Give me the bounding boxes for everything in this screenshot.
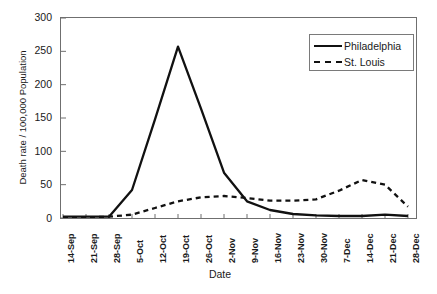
x-tick-label: 28-Sep xyxy=(112,233,122,263)
x-tick-label: 26-Oct xyxy=(204,235,214,263)
x-tick-label: 23-Nov xyxy=(296,233,306,263)
x-tick-label: 28-Dec xyxy=(411,233,421,263)
y-tick-label: 50 xyxy=(18,178,52,190)
x-tick-label: 21-Dec xyxy=(388,233,398,263)
series-line-philadelphia xyxy=(63,47,408,217)
y-tick-label: 0 xyxy=(18,212,52,224)
legend-swatch-dashed-line-icon xyxy=(314,57,342,67)
chart-figure: Death rate / 100,000 Population 300 250 … xyxy=(0,0,437,294)
x-tick-label: 9-Nov xyxy=(250,238,260,263)
y-tick-label: 300 xyxy=(18,11,52,23)
y-tick-label: 150 xyxy=(18,111,52,123)
x-axis-title: Date xyxy=(180,268,260,280)
x-tick-label: 21-Sep xyxy=(89,233,99,263)
x-tick-label: 12-Oct xyxy=(158,235,168,263)
legend-label: St. Louis xyxy=(344,56,385,68)
y-tick-label: 200 xyxy=(18,78,52,90)
x-tick-label: 14-Sep xyxy=(66,233,76,263)
y-axis-ticks xyxy=(61,18,66,218)
x-tick-label: 16-Nov xyxy=(273,233,283,263)
x-tick-label: 14-Dec xyxy=(365,233,375,263)
legend-item-philadelphia: Philadelphia xyxy=(314,38,409,54)
legend-label: Philadelphia xyxy=(344,40,401,52)
chart-legend: Philadelphia St. Louis xyxy=(309,34,414,71)
x-tick-label: 30-Nov xyxy=(319,233,329,263)
legend-item-st-louis: St. Louis xyxy=(314,54,409,70)
x-tick-label: 5-Oct xyxy=(135,240,145,263)
x-tick-label: 7-Dec xyxy=(342,238,352,263)
x-tick-label: 2-Nov xyxy=(227,238,237,263)
y-tick-label: 250 xyxy=(18,44,52,56)
y-tick-label: 100 xyxy=(18,145,52,157)
legend-swatch-solid-line-icon xyxy=(314,41,342,51)
x-tick-label: 19-Oct xyxy=(181,235,191,263)
